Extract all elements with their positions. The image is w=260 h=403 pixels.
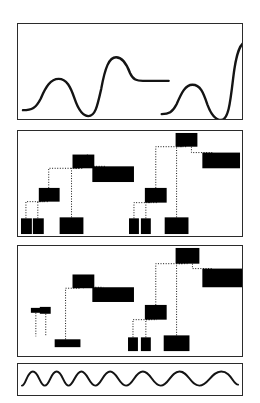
bar-node-f — [202, 153, 240, 169]
dendrogram-upper-svg — [18, 131, 242, 236]
bar-node-b — [92, 287, 134, 302]
bar-leaf-4 — [128, 337, 138, 351]
bar-node-e — [176, 133, 198, 147]
bar-leaf-3 — [60, 217, 84, 234]
sine-wave-svg — [18, 364, 242, 395]
right-sigmoid-wave — [162, 42, 242, 119]
link-leaf1-nodea — [26, 202, 44, 219]
link-noded-nodee — [156, 147, 183, 188]
multi-panel-figure — [0, 0, 260, 403]
sine-wave-panel — [17, 363, 243, 396]
link-leaf6-nodee — [177, 147, 187, 218]
waveform-panel-top — [17, 23, 243, 120]
bar-leaf-2 — [33, 218, 44, 234]
dendrogram-lower-svg — [18, 246, 242, 356]
bar-node-d — [145, 188, 167, 203]
bar-node-e — [176, 248, 200, 264]
link-leaf3-nodeb — [72, 168, 84, 217]
link-nodee-nodef — [191, 147, 212, 153]
bar-node-c — [92, 166, 134, 182]
bar-small-leaf-1 — [31, 308, 41, 313]
left-sigmoid-wave — [23, 57, 169, 116]
bar-leaf-4 — [129, 218, 139, 234]
bar-leaf-base-1 — [55, 339, 81, 347]
link-leaf6-nodee — [177, 264, 188, 336]
chirp-sine-wave — [22, 372, 238, 386]
bar-leaf-1 — [21, 218, 32, 234]
link-base-nodea — [66, 288, 80, 339]
dendrogram-panel-upper — [17, 130, 243, 237]
bar-node-b — [73, 155, 95, 169]
link-noded-nodee — [156, 264, 183, 305]
bar-leaf-6 — [165, 217, 189, 234]
link-leaf5-noded — [146, 203, 157, 219]
link-nodee-nodef — [192, 264, 213, 269]
link-nodea-nodeb — [49, 168, 80, 188]
bar-leaf-5 — [141, 337, 151, 351]
dendrogram-panel-lower — [17, 245, 243, 357]
link-leaf4-noded — [133, 320, 151, 338]
bar-group-lower — [31, 248, 242, 351]
link-leaf4-noded — [134, 203, 151, 219]
waveform-top-svg — [18, 24, 242, 119]
link-leaf5-noded — [146, 320, 157, 338]
bar-node-a — [39, 188, 60, 202]
link-group-upper — [26, 147, 212, 219]
bar-node-f — [202, 269, 242, 288]
link-leaf2-nodea — [38, 202, 49, 219]
bar-node-d — [145, 305, 167, 320]
bar-group-upper — [21, 133, 240, 234]
bar-leaf-5 — [141, 218, 151, 234]
bar-leaf-6 — [164, 335, 190, 351]
bar-small-leaf-2 — [40, 307, 51, 314]
bar-node-a — [73, 274, 95, 288]
